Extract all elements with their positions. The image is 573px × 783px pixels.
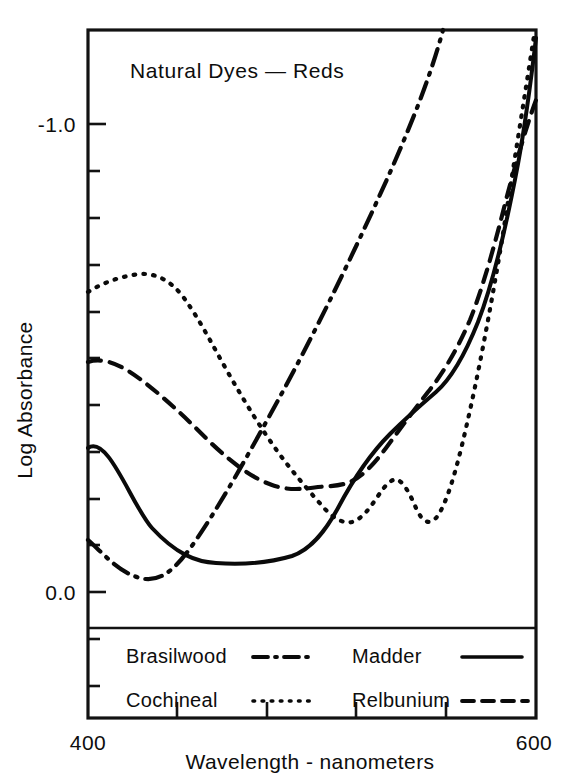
chart-title: Natural Dyes — Reds xyxy=(130,59,344,82)
x-axis-title: Wavelength - nanometers xyxy=(186,750,435,773)
y-tick-label-top: -1.0 xyxy=(38,113,76,136)
figure-background xyxy=(0,0,573,783)
x-tick-label-right: 600 xyxy=(516,731,553,754)
chart-figure: Natural Dyes — Reds -1.0 0.0 Log Absorba… xyxy=(0,0,573,783)
x-tick-label-left: 400 xyxy=(70,731,107,754)
legend-label-brasilwood: Brasilwood xyxy=(126,645,227,667)
y-tick-label-bottom: 0.0 xyxy=(45,581,76,604)
y-axis-title: Log Absorbance xyxy=(13,321,36,478)
legend-label-relbunium: Relbunium xyxy=(352,689,450,711)
natural-dyes-spectra-chart: Natural Dyes — Reds -1.0 0.0 Log Absorba… xyxy=(0,0,573,783)
legend-label-madder: Madder xyxy=(352,645,422,667)
legend-label-cochineal: Cochineal xyxy=(126,689,218,711)
